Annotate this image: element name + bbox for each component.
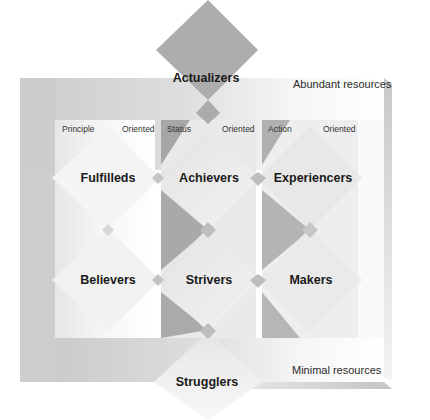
orientation-status-left: Status: [167, 124, 191, 134]
segment-actualizers: Actualizers: [173, 71, 240, 85]
segment-strivers: Strivers: [186, 273, 233, 287]
orientation-principle-right: Oriented: [122, 124, 155, 134]
segment-strugglers: Strugglers: [176, 375, 239, 389]
orientation-action-left: Action: [268, 124, 292, 134]
orientation-action-right: Oriented: [323, 124, 356, 134]
abundant-resources-label: Abundant resources: [293, 78, 391, 90]
frame-right-edge: [384, 78, 392, 380]
orientation-principle-left: Principle: [62, 124, 95, 134]
segment-makers: Makers: [289, 273, 332, 287]
segment-fulfilleds: Fulfilleds: [81, 171, 136, 185]
orientation-status-right: Oriented: [222, 124, 255, 134]
segment-experiencers: Experiencers: [274, 171, 353, 185]
minimal-resources-label: Minimal resources: [292, 364, 381, 376]
segment-achievers: Achievers: [179, 171, 239, 185]
diagram-background: [0, 0, 430, 420]
segment-believers: Believers: [80, 273, 136, 287]
